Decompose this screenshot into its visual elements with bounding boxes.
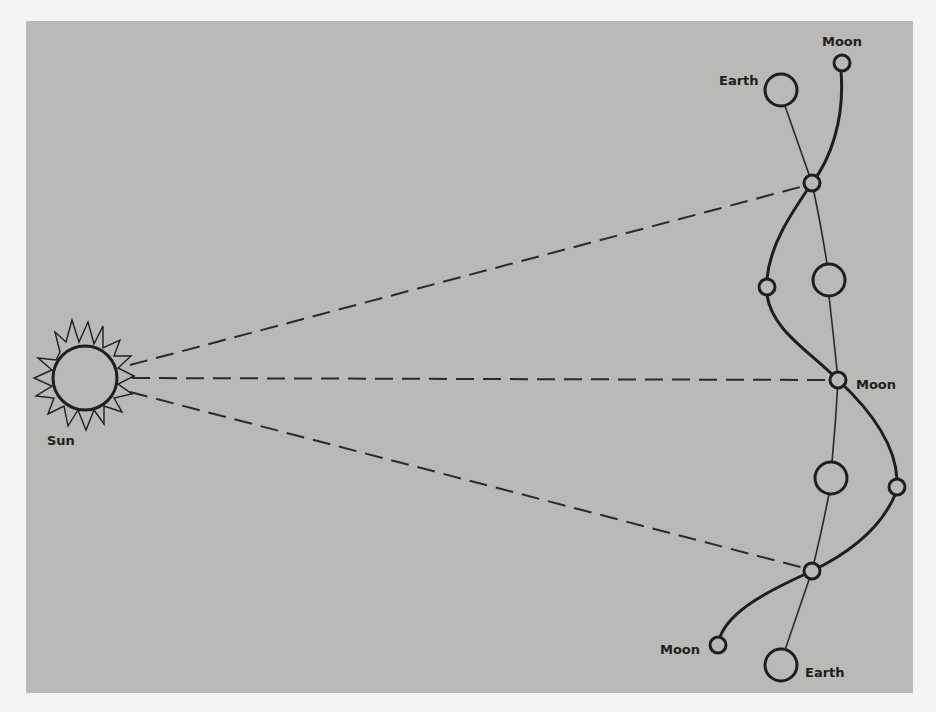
moon-icon xyxy=(804,175,820,191)
moon-label-top: Moon xyxy=(822,34,862,49)
sight-line-upper xyxy=(130,186,804,365)
earth-icon xyxy=(765,74,797,106)
sun-icon xyxy=(34,320,134,430)
moon-icon xyxy=(710,637,726,653)
moon-icon xyxy=(889,479,905,495)
sun-label: Sun xyxy=(47,433,75,448)
moon-icon xyxy=(804,563,820,579)
sight-line-middle xyxy=(132,378,829,380)
earth-icon xyxy=(815,462,847,494)
sun-disk xyxy=(53,346,117,410)
moon-icon xyxy=(759,279,775,295)
earth-label-top: Earth xyxy=(719,73,759,88)
earth-icon xyxy=(813,264,845,296)
moon-icon xyxy=(834,55,850,71)
moon-icon xyxy=(830,372,846,388)
earth-label-bottom: Earth xyxy=(805,665,845,680)
earth-icon xyxy=(765,649,797,681)
moon-label-bottom: Moon xyxy=(660,642,700,657)
moon-label-middle: Moon xyxy=(856,377,896,392)
sight-lines xyxy=(130,186,829,568)
earth-moon-orbit-diagram: Sun Earth Moon Moon Moon Earth xyxy=(0,0,936,712)
sight-line-lower xyxy=(130,392,804,568)
